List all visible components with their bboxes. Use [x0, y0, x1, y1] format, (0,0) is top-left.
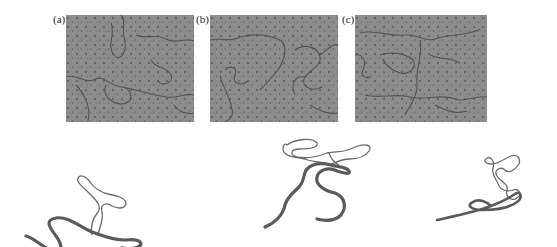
micrograph-a: [66, 15, 194, 122]
sketch-c: [435, 150, 545, 230]
sketch-a: [20, 160, 150, 240]
micrograph-c-image: [355, 15, 487, 122]
sketch-c-drawing: [435, 150, 545, 230]
panel-label-c: (c): [342, 14, 354, 25]
panel-label-a: (a): [53, 14, 65, 25]
micrograph-c: [355, 15, 487, 122]
sketch-b: [255, 135, 385, 235]
sketch-a-drawing: [20, 160, 150, 240]
sketch-b-drawing: [255, 135, 385, 235]
panel-label-b: (b): [196, 14, 209, 25]
micrograph-a-image: [66, 15, 194, 122]
micrograph-b-image: [210, 15, 338, 122]
micrograph-b: [210, 15, 338, 122]
